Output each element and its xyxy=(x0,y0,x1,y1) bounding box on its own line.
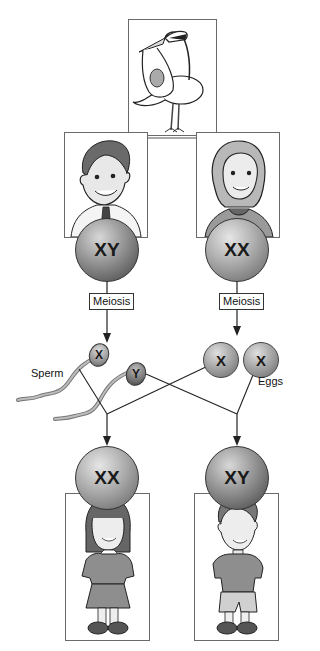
egg-1-label: X xyxy=(216,352,226,369)
father-meiosis-label: Meiosis xyxy=(89,293,134,310)
boy-child-icon xyxy=(195,494,278,640)
daughter-cell: XX xyxy=(75,446,139,510)
girl-child-icon xyxy=(66,494,149,640)
egg-1: X xyxy=(203,342,239,378)
eggs-label: Eggs xyxy=(258,375,283,387)
arrow-father xyxy=(103,333,111,343)
sperm-label: Sperm xyxy=(31,367,63,379)
arrow-mother xyxy=(233,326,241,336)
arrow-son xyxy=(233,436,241,446)
stork-delivering-baby-icon xyxy=(129,20,216,135)
father-cell: XY xyxy=(75,218,139,282)
stork-frame xyxy=(128,19,217,136)
egg-2-label: X xyxy=(256,352,266,369)
sperm-y-label: Y xyxy=(132,367,140,381)
mother-meiosis-label: Meiosis xyxy=(219,293,264,310)
mother-cell-label: XX xyxy=(224,239,249,261)
sperm-x-label: X xyxy=(95,348,103,362)
father-cell-label: XY xyxy=(94,239,119,261)
daughter-cell-label: XX xyxy=(94,467,119,489)
son-cell: XY xyxy=(205,446,269,510)
egg-2: X xyxy=(243,342,279,378)
son-frame xyxy=(194,493,279,641)
son-cell-label: XY xyxy=(224,467,249,489)
daughter-frame xyxy=(65,493,150,641)
arrow-daughter xyxy=(103,436,111,446)
mother-cell: XX xyxy=(205,218,269,282)
